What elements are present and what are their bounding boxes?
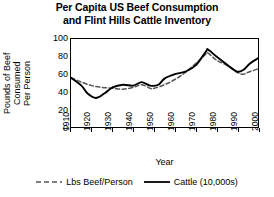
chart-container: Per Capita US Beef Consumption and Flint… [0, 0, 274, 197]
legend-swatch-dashed [36, 178, 62, 186]
legend-swatch-solid [144, 178, 170, 186]
y-tick-40: 40 [58, 87, 68, 97]
y-axis-title-line-3: Per Person [22, 36, 32, 130]
y-tick-100: 100 [53, 33, 68, 43]
y-axis-title-line-1: Pounds of Beef [2, 36, 12, 130]
series-line-beef [71, 52, 258, 89]
x-tick-1960: 1960 [166, 112, 176, 131]
legend-label-beef: Lbs Beef/Person [66, 177, 133, 187]
x-tick-1990: 1990 [229, 112, 239, 131]
legend-item-beef: Lbs Beef/Person [36, 177, 133, 187]
x-tick-1940: 1940 [124, 112, 134, 131]
chart-title: Per Capita US Beef Consumption and Flint… [0, 1, 274, 26]
x-tick-1910: 1910 [61, 112, 71, 131]
legend-label-cattle: Cattle (10,000s) [174, 177, 238, 187]
y-axis-title-line-2: Consumed [12, 36, 22, 130]
series-line-cattle [71, 49, 258, 98]
y-tick-80: 80 [58, 51, 68, 61]
x-axis-tick-labels: 1910192019301940195019601970198019902000 [0, 131, 274, 159]
x-tick-2000: 2000 [250, 112, 260, 131]
x-tick-1970: 1970 [187, 112, 197, 131]
y-axis-title: Pounds of Beef Consumed Per Person [2, 36, 48, 130]
x-tick-1920: 1920 [82, 112, 92, 131]
chart-title-line-1: Per Capita US Beef Consumption [0, 1, 274, 14]
chart-legend: Lbs Beef/Person Cattle (10,000s) [0, 174, 274, 190]
x-axis-title: Year [70, 157, 259, 167]
x-tick-1930: 1930 [103, 112, 113, 131]
legend-item-cattle: Cattle (10,000s) [144, 177, 238, 187]
x-tick-1980: 1980 [208, 112, 218, 131]
y-tick-60: 60 [58, 69, 68, 79]
chart-title-line-2: and Flint Hills Cattle Inventory [0, 14, 274, 27]
x-tick-1950: 1950 [145, 112, 155, 131]
